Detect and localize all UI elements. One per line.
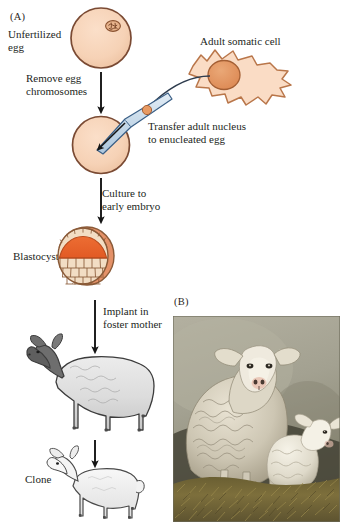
label-adult-somatic-cell: Adult somatic cell bbox=[200, 35, 281, 48]
nucleus-transfer-path bbox=[134, 76, 210, 119]
label-remove-egg-chromosomes: Remove egg chromosomes bbox=[26, 72, 87, 97]
figure-container: (A) Unfertilized egg Remove egg chromoso… bbox=[0, 0, 344, 527]
lamb-muzzle bbox=[47, 458, 67, 474]
sheep-muzzle bbox=[27, 347, 50, 368]
label-transfer-nucleus: Transfer adult nucleus to enucleated egg bbox=[148, 120, 246, 145]
somatic-cell-nucleus bbox=[208, 61, 240, 90]
egg-chromosomes-icon bbox=[106, 21, 121, 32]
unfertilized-egg-illustration bbox=[71, 8, 131, 68]
label-blastocyst: Blastocyst bbox=[13, 250, 59, 263]
panel-b-photograph bbox=[173, 316, 340, 522]
label-unfertilized-egg: Unfertilized egg bbox=[8, 28, 61, 53]
transferred-nucleus bbox=[142, 105, 151, 114]
blastocyst-illustration bbox=[58, 227, 114, 285]
trophoblast-cells bbox=[60, 258, 106, 285]
label-implant-in-foster-mother: Implant in foster mother bbox=[103, 305, 162, 330]
clone-lamb-illustration bbox=[47, 446, 144, 519]
dolly-sheep-photo bbox=[173, 316, 340, 522]
adult-somatic-cell-illustration bbox=[189, 50, 291, 105]
panel-b-letter: (B) bbox=[174, 296, 189, 307]
adult-sheep-illustration bbox=[27, 334, 154, 432]
label-clone: Clone bbox=[25, 473, 51, 486]
label-culture-to-early-embryo: Culture to early embryo bbox=[102, 187, 160, 212]
inner-cell-mass bbox=[60, 236, 107, 258]
arrow-injection bbox=[100, 123, 126, 148]
panel-a-letter: (A) bbox=[10, 11, 25, 22]
